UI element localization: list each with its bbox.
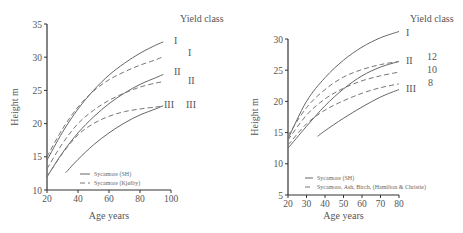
y-axis-label: Height m [249, 98, 260, 136]
right-chart-sycamore-sh-vs-hamilton-christie: 5101520253020304050607080Age yearsHeight… [249, 13, 454, 221]
yield-class-label: 8 [428, 77, 433, 88]
yield-class-label: III [164, 99, 174, 110]
y-tick-label: 30 [33, 53, 43, 63]
x-tick-label: 60 [357, 199, 367, 209]
series-line [288, 61, 399, 135]
yield-class-label: II [406, 55, 413, 66]
y-tick-label: 15 [33, 152, 43, 162]
x-axis-label: Age years [323, 210, 363, 221]
x-tick-label: 80 [135, 194, 145, 204]
legend-label: Sycamore, Ash, Birch, (Hamilton & Christ… [317, 184, 426, 191]
y-tick-label: 10 [274, 159, 284, 169]
x-tick-label: 40 [73, 194, 83, 204]
yield-class-label: III [406, 83, 416, 94]
x-tick-label: 20 [42, 194, 52, 204]
yield-class-label: III [186, 99, 196, 110]
yield-class-label: 10 [427, 64, 437, 75]
y-tick-label: 35 [33, 20, 43, 30]
left-chart-sycamore-sh-vs-kjolby: 10152025303520406080100Age yearsHeight m… [9, 13, 224, 221]
y-tick-label: 25 [33, 86, 43, 96]
x-tick-label: 80 [394, 199, 404, 209]
yield-class-label: II [188, 75, 195, 86]
x-tick-label: 70 [376, 199, 386, 209]
y-tick-label: 15 [274, 128, 284, 138]
legend-label: Sycamore (SH) [317, 175, 354, 182]
series-line [318, 90, 399, 137]
yield-class-header: Yield class [180, 13, 224, 24]
x-tick-label: 30 [302, 199, 312, 209]
series-line [288, 32, 399, 139]
y-tick-label: 30 [274, 35, 284, 45]
series-line [288, 72, 399, 140]
y-tick-label: 10 [33, 186, 43, 196]
legend-label: Sycamore (Kjølby) [94, 180, 140, 187]
x-tick-label: 40 [320, 199, 330, 209]
legend-label: Sycamore (SH) [94, 171, 131, 178]
y-tick-label: 20 [33, 119, 43, 129]
x-tick-label: 50 [339, 199, 349, 209]
series-line [66, 106, 164, 173]
x-tick-label: 60 [104, 194, 114, 204]
x-tick-label: 20 [283, 199, 293, 209]
y-axis-label: Height m [9, 88, 20, 126]
yield-class-header: Yield class [410, 13, 454, 24]
yield-class-label: II [174, 66, 181, 77]
series-line [288, 84, 399, 145]
y-tick-label: 25 [274, 66, 284, 76]
x-axis-label: Age years [89, 210, 129, 221]
yield-class-label: I [188, 47, 191, 58]
yield-class-label: 12 [427, 51, 437, 62]
series-line [47, 42, 163, 160]
x-tick-label: 100 [164, 194, 179, 204]
yield-class-label: I [174, 35, 177, 46]
y-tick-label: 20 [274, 97, 284, 107]
yield-class-height-charts: 10152025303520406080100Age yearsHeight m… [0, 0, 463, 233]
yield-class-label: I [406, 27, 409, 38]
